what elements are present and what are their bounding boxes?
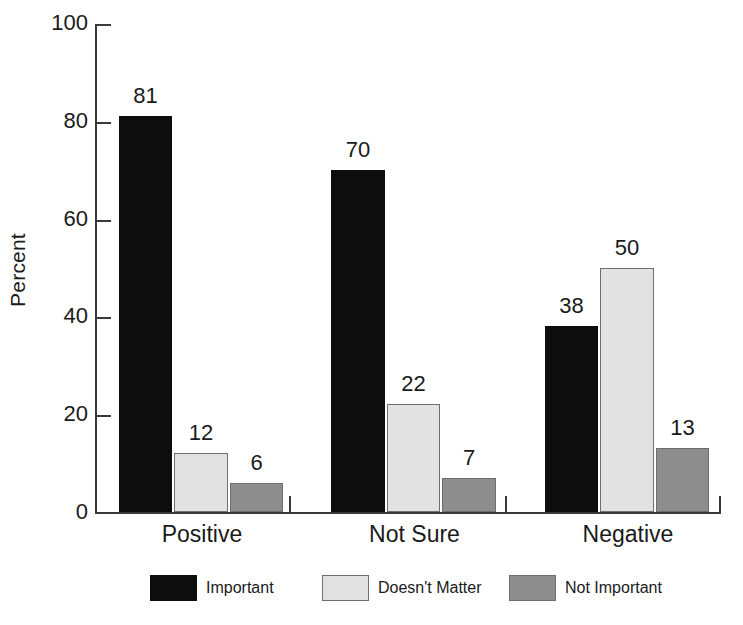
bar-notsure-not-important[interactable]: [442, 478, 496, 512]
group-separator-tick-2: [505, 496, 507, 513]
bar-notsure-important[interactable]: [331, 170, 385, 512]
bar-value-notsure-not-important: 7: [432, 445, 506, 471]
x-axis-line: [95, 512, 721, 514]
y-tick-100: [95, 24, 111, 26]
chart-legend: Important Doesn't Matter Not Important: [0, 573, 743, 607]
bar-positive-important[interactable]: [119, 116, 172, 512]
category-label-positive: Positive: [121, 521, 283, 548]
bar-value-positive-not-important: 6: [220, 450, 293, 476]
y-tick-20: [95, 415, 111, 417]
bar-value-positive-important: 81: [109, 83, 182, 109]
y-tick-label-80: 80: [28, 108, 88, 134]
legend-swatch-not-important-icon: [509, 575, 556, 601]
y-tick-label-0: 0: [28, 499, 88, 525]
y-tick-label-100: 100: [28, 10, 88, 36]
bar-value-negative-not-important: 13: [646, 415, 719, 441]
y-tick-60: [95, 220, 111, 222]
bar-chart: Percent 100 80 60 40 20 0 81 12 6 Positi…: [0, 0, 743, 625]
bar-value-notsure-doesnt-matter: 22: [377, 371, 450, 397]
y-tick-40: [95, 317, 111, 319]
y-axis-line: [95, 24, 97, 514]
y-tick-label-60: 60: [28, 206, 88, 232]
legend-label-not-important: Not Important: [565, 579, 662, 597]
legend-item-important[interactable]: Important: [150, 573, 274, 603]
bar-negative-not-important[interactable]: [656, 448, 709, 512]
y-tick-80: [95, 122, 111, 124]
y-tick-label-40: 40: [28, 303, 88, 329]
category-label-not-sure: Not Sure: [333, 521, 496, 548]
legend-item-doesnt-matter[interactable]: Doesn't Matter: [322, 573, 482, 603]
bar-value-notsure-important: 70: [321, 137, 395, 163]
bar-value-negative-doesnt-matter: 50: [590, 235, 664, 261]
legend-label-doesnt-matter: Doesn't Matter: [378, 579, 482, 597]
bar-value-negative-important: 38: [535, 293, 608, 319]
bar-negative-doesnt-matter[interactable]: [600, 268, 654, 512]
category-label-negative: Negative: [547, 521, 709, 548]
legend-swatch-doesnt-matter-icon: [322, 575, 369, 601]
y-axis-title: Percent: [6, 210, 30, 330]
bar-value-positive-doesnt-matter: 12: [164, 420, 238, 446]
bar-positive-not-important[interactable]: [230, 483, 283, 512]
legend-label-important: Important: [206, 579, 274, 597]
group-separator-tick-1: [289, 496, 291, 513]
x-axis-end-tick: [719, 496, 721, 514]
y-tick-label-20: 20: [28, 401, 88, 427]
bar-negative-important[interactable]: [545, 326, 598, 512]
legend-item-not-important[interactable]: Not Important: [509, 573, 662, 603]
legend-swatch-important-icon: [150, 575, 197, 601]
